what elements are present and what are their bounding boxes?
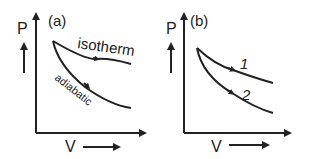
panel-tag: (b): [190, 12, 208, 29]
flow-arrow-icon: [93, 58, 97, 59]
curve-label-1: 1: [240, 55, 248, 72]
panel-b: (b) P V 1 2: [166, 12, 290, 155]
x-axis-label: V: [211, 138, 222, 155]
flow-arrow-icon: [227, 90, 232, 93]
y-axis-label: P: [17, 20, 28, 37]
curve-label-isotherm: isotherm: [77, 34, 136, 59]
panel-tag: (a): [48, 12, 66, 29]
curve-label-2: 2: [241, 86, 251, 103]
x-axis-label: V: [65, 138, 76, 155]
y-axis-label: P: [166, 20, 177, 37]
curve-1: [197, 48, 273, 83]
pv-diagrams: (a) P V isotherm adiabatic (b) P V 1 2: [0, 0, 309, 159]
panel-a: (a) P V isotherm adiabatic: [17, 12, 145, 155]
